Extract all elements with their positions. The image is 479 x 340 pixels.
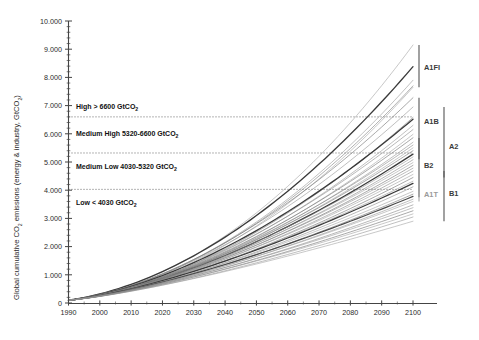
- y-axis-title: Global cumulative CO2 emissions (energy …: [12, 95, 23, 300]
- y-tick-label: 4.000: [20, 186, 62, 195]
- y-axis-title-sub2: 2: [17, 98, 23, 101]
- chart-canvas: [0, 0, 479, 340]
- x-tick-label: 2100: [396, 308, 430, 317]
- band-label-low: Low < 4030 GtCO2: [76, 199, 137, 208]
- x-tick-label: 2010: [114, 308, 148, 317]
- x-tick-label: 1990: [52, 308, 86, 317]
- y-tick-label: 3.000: [20, 214, 62, 223]
- scenario-line: [69, 138, 414, 300]
- y-axis-title-post: ): [12, 95, 21, 98]
- x-tick-label: 2050: [239, 308, 273, 317]
- scenario-line: [69, 160, 414, 300]
- x-tick-label: 2090: [365, 308, 399, 317]
- band-label-subscript: 2: [174, 167, 177, 173]
- x-tick-label: 2020: [145, 308, 179, 317]
- band-label-subscript: 2: [176, 134, 179, 140]
- scenario-line: [69, 208, 414, 301]
- y-axis-title-pre: Global cumulative CO: [12, 226, 21, 300]
- y-axis-title-sub1: 2: [17, 223, 23, 226]
- y-tick-label: 6.000: [20, 130, 62, 139]
- y-tick-label: 5.000: [20, 158, 62, 167]
- x-tick-label: 2040: [208, 308, 242, 317]
- scenario-line: [69, 174, 414, 300]
- scenario-line: [69, 130, 414, 301]
- scenario-line: [69, 199, 414, 300]
- scenario-label-A1T: A1T: [424, 190, 438, 199]
- x-tick-label: 2060: [271, 308, 305, 317]
- band-label-high: High > 6600 GtCO2: [76, 103, 138, 112]
- y-tick-label: 9.000: [20, 45, 62, 54]
- y-tick-label: 10.000: [20, 17, 62, 26]
- scenario-line: [69, 119, 414, 300]
- x-tick-label: 2030: [177, 308, 211, 317]
- x-tick-label: 2000: [83, 308, 117, 317]
- scenario-label-B2: B2: [424, 161, 433, 170]
- scenario-line: [69, 205, 414, 300]
- band-label-subscript: 2: [134, 202, 137, 208]
- scenario-label-A2: A2: [449, 142, 458, 151]
- band-label-medium-low: Medium Low 4030-5320 GtCO2: [76, 163, 177, 172]
- y-tick-label: 2.000: [20, 242, 62, 251]
- y-tick-label: 1.000: [20, 271, 62, 280]
- band-label-subscript: 2: [135, 106, 138, 112]
- y-tick-label: 0: [20, 299, 62, 308]
- x-tick-label: 2070: [302, 308, 336, 317]
- figure-root: Global cumulative CO2 emissions (energy …: [0, 0, 479, 340]
- scenario-label-B1: B1: [449, 189, 458, 198]
- scenario-line: [69, 87, 414, 300]
- x-tick-label: 2080: [333, 308, 367, 317]
- scenario-line: [69, 201, 414, 300]
- y-tick-label: 8.000: [20, 73, 62, 82]
- scenario-label-A1B: A1B: [424, 117, 439, 126]
- scenario-label-A1FI: A1FI: [424, 63, 440, 72]
- scenario-lines: [69, 45, 414, 300]
- y-tick-label: 7.000: [20, 101, 62, 110]
- band-label-medium-high: Medium High 5320-6600 GtCO2: [76, 130, 178, 139]
